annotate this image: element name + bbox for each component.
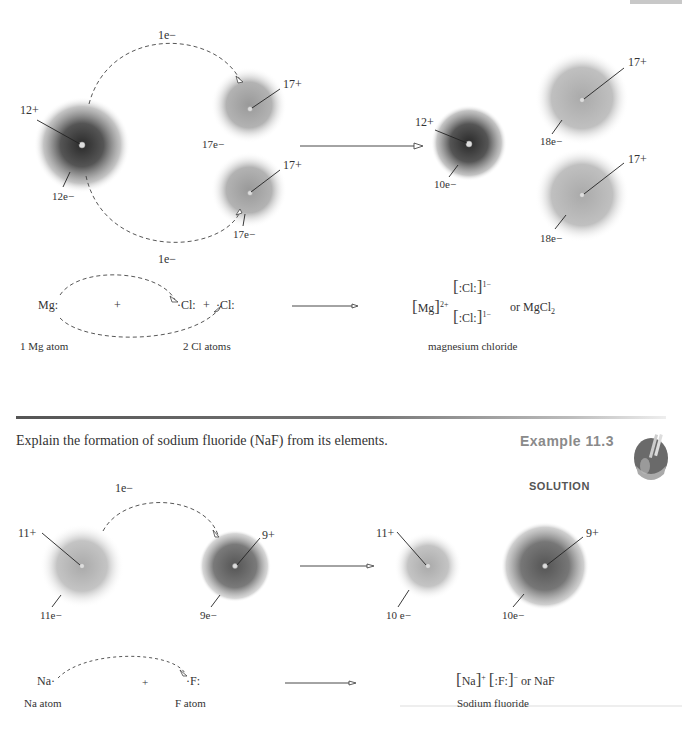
naf-lewis-product: [Na]+ [:F:]− or NaF [456,670,555,690]
cl-atom-bottom-cloud [211,152,287,228]
cl-ion-top-nucleus [580,98,585,103]
lewis-na: Na· [37,674,55,689]
cl-atom-top-cloud [211,67,287,143]
cl-atom-bottom-nucleus-label: 17+ [283,158,302,173]
cl-ion-top-electron-label: 18e− [540,135,562,147]
f-atom-nucleus-label: 9+ [262,528,275,543]
electron-transfer-label-bottom: 1e− [158,252,176,267]
na-atom-electron-label: 11e− [40,609,62,621]
cl-atom-top-electron-label: 17e− [202,138,224,150]
lewis-cl-2: ·Cl: [216,298,235,313]
na-ion-nucleus-label: 11+ [376,526,394,541]
cl-atoms-caption: 2 Cl atoms [183,340,231,352]
cl-atom-bottom-electron-label: 17e− [233,228,255,240]
cl-ion-bottom-electron-label: 18e− [540,232,562,244]
lewis-plus-1: + [114,298,121,313]
product-caption-naf: Sodium fluoride [457,697,529,709]
na-atom-nucleus-label: 11+ [18,526,36,541]
cl-ion-top-nucleus-label: 17+ [628,55,647,70]
na-ion-electron-label: 10 e− [386,609,411,621]
lewis-mg: Mg: [38,298,58,313]
cl-ion-bottom-nucleus [580,193,585,198]
naf-electron-transfer-label: 1e− [115,481,133,496]
section-divider [16,416,666,419]
example-title: Example 11.3 [520,433,614,449]
f-atom-electron-label: 9e− [200,609,217,621]
lewis-f: ·F: [186,674,200,689]
electron-transfer-arc-naf [103,503,218,535]
mg-atom-electron-label: 12e− [52,190,74,202]
mg-ion-electron-label: 10e− [434,178,456,190]
lewis-cl-1: ·Cl: [177,298,196,313]
ionic-bonding-diagram [0,0,682,731]
lewis-plus-2: + [203,298,210,313]
electron-transfer-label-top: 1e− [158,28,176,43]
solution-label: SOLUTION [529,480,590,492]
product-caption-mgcl2: magnesium chloride [428,340,518,352]
cl-atom-top-nucleus-label: 17+ [283,77,302,92]
bell-icon [630,432,672,482]
mg-ion-nucleus-label: 12+ [415,115,434,130]
mg-atom-nucleus [79,142,85,148]
f-ion-nucleus-label: 9+ [586,526,599,541]
mg-atom-caption: 1 Mg atom [20,340,68,352]
cl-atom-top-nucleus [248,107,253,112]
f-ion-electron-label: 10e− [502,609,524,621]
f-atom-caption: F atom [175,697,206,709]
mg-ion-nucleus [466,141,472,147]
mg-atom-nucleus-label: 12+ [20,103,39,118]
lewis-plus-naf: + [142,676,148,688]
na-atom-caption: Na atom [24,697,62,709]
cl-ion-bottom-nucleus-label: 17+ [628,152,647,167]
example-prompt: Explain the formation of sodium fluoride… [16,433,388,449]
